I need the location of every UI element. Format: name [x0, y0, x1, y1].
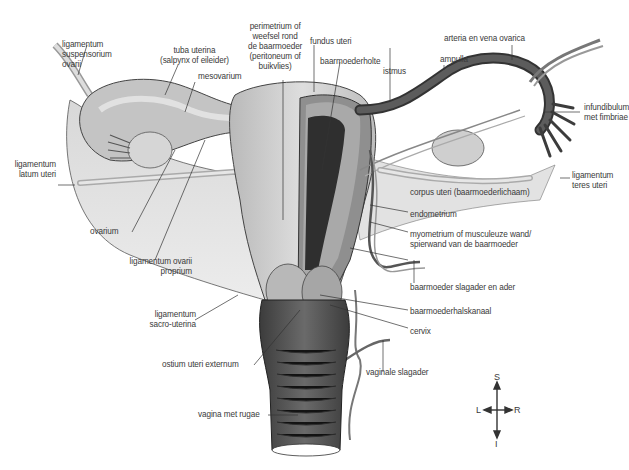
right-ovary	[432, 130, 484, 166]
label-ostium-uteri-externum: ostium uteri externum	[162, 360, 239, 370]
label-ligamentum-sacro-uterina: ligamentum sacro-uterina	[140, 310, 196, 330]
compass-left: L	[476, 405, 481, 415]
label-ligamentum-teres-uteri: ligamentum teres uteri	[572, 171, 613, 191]
label-baarmoeder-slagader-en-ader: baarmoeder slagader en ader	[410, 283, 515, 293]
compass-inferior: I	[495, 439, 497, 449]
orientation-compass	[484, 382, 512, 438]
label-baarmoederhalskanaal: baarmoederhalskanaal	[410, 307, 491, 317]
label-myometrium: myometrium of musculeuze wand/ spierwand…	[410, 230, 531, 250]
label-corpus-uteri: corpus uteri (baarmoederlichaam)	[410, 188, 530, 198]
label-istmus: istmus	[383, 67, 406, 77]
label-vaginale-slagader: vaginale slagader	[366, 368, 428, 378]
label-infundibulum: infundibulum met fimbriae	[584, 103, 629, 123]
label-ampulla: ampulla	[440, 55, 468, 65]
label-ligamentum-ovarii-proprium: ligamentum ovarii proprium	[100, 257, 192, 277]
label-mesovarium: mesovarium	[198, 72, 242, 82]
label-arteria-en-vena-ovarica: arteria en vena ovarica	[444, 34, 525, 44]
label-baarmoederholte: baarmoederholte	[320, 57, 380, 67]
label-tuba-uterina: tuba uterina (salpynx of eileider)	[160, 46, 229, 66]
label-cervix: cervix	[410, 327, 431, 337]
label-ligamentum-suspensorium-ovarii: ligamentum suspensorium ovarii	[62, 40, 112, 70]
left-ovary	[128, 132, 172, 168]
label-ligamentum-latum-uteri: ligamentum latum uteri	[0, 160, 56, 180]
label-fundus-uteri: fundus uteri	[310, 37, 352, 47]
compass-superior: S	[494, 372, 500, 382]
label-ovarium: ovarium	[90, 227, 118, 237]
compass-right: R	[514, 405, 520, 415]
label-vagina-met-rugae: vagina met rugae	[198, 410, 260, 420]
label-perimetrium: perimetrium of weefsel rond de baarmoede…	[248, 22, 302, 72]
label-endometrium: endometrium	[410, 210, 457, 220]
